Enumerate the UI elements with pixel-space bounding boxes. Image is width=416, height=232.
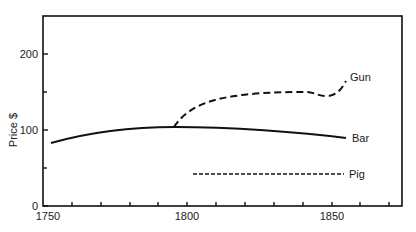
- series-pig-label: Pig: [349, 168, 365, 180]
- series-bar-label: Bar: [352, 132, 369, 144]
- x-tick-1850: 1850: [320, 210, 344, 222]
- line-chart: 0 100 200 Price $ 1750 1800 1850 Bar Gun…: [0, 0, 416, 232]
- x-tick-labels: 1750 1800 1850: [36, 210, 344, 222]
- series-gun-label: Gun: [350, 71, 371, 83]
- x-tick-1750: 1750: [36, 210, 60, 222]
- y-tick-200: 200: [20, 48, 38, 60]
- y-tick-labels: 0 100 200: [20, 48, 38, 212]
- series-bar-line: [51, 127, 346, 143]
- y-axis-title: Price $: [7, 113, 19, 147]
- y-tick-100: 100: [20, 124, 38, 136]
- series-gun-line: [174, 81, 346, 127]
- x-tick-1800: 1800: [175, 210, 199, 222]
